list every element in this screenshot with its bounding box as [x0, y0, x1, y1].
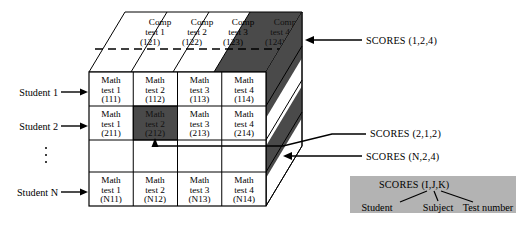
front-face-group: Math test 1 (111) Math test 2 (112) Math…: [89, 72, 266, 206]
diagram-svg: Comp test 1 (121) Comp test 2 (122) Comp…: [0, 0, 530, 226]
annotation-scores-n-2-4: SCORES (N,2,4): [283, 151, 439, 163]
top-cell-3-line1: Comp: [232, 17, 255, 27]
figure-canvas: Comp test 1 (121) Comp test 2 (122) Comp…: [0, 0, 530, 226]
student-labels-group: Student 1 Student 2 Student N: [17, 87, 88, 198]
cell-r4c1-line2: test 1: [101, 185, 121, 195]
cell-r1c3-line1: Math: [190, 75, 210, 85]
cell-r4c2-line2: test 2: [145, 185, 165, 195]
top-cell-2: Comp test 2 (122): [182, 17, 214, 47]
top-cell-2-line1: Comp: [191, 17, 214, 27]
cell-r1c2-line1: Math: [145, 75, 165, 85]
student-1-label: Student 1: [19, 87, 58, 98]
student-n-arrow: [61, 189, 88, 196]
top-cell-1-line2: test 1: [145, 27, 165, 37]
top-cell-4-line2: test 4: [270, 27, 290, 37]
legend-title: SCORES (I,J,K): [379, 179, 449, 191]
cell-r4c3-line2: test 3: [190, 185, 210, 195]
cell-r4c3-line3: (N13): [189, 194, 211, 204]
cell-r2c4-line3: (214): [234, 128, 254, 138]
student-2-arrow: [61, 123, 88, 130]
cell-r2c1-line2: test 1: [101, 119, 121, 129]
cell-r1c1-line3: (111): [101, 94, 120, 104]
cell-r2c2-line2: test 2: [145, 119, 165, 129]
top-face-group: Comp test 1 (121) Comp test 2 (122) Comp…: [89, 12, 302, 72]
top-cell-3-line3: (123): [223, 37, 243, 47]
student-2-label: Student 2: [19, 121, 58, 132]
top-cell-2-line2: test 2: [187, 27, 207, 37]
top-cell-1-line1: Comp: [149, 17, 172, 27]
student-1-arrow: [61, 89, 88, 96]
annotation-scores-n-2-4-label: SCORES (N,2,4): [366, 151, 439, 163]
top-cell-3-line2: test 3: [228, 27, 248, 37]
legend-part-test-number: Test number: [463, 202, 514, 213]
top-cell-1-line3: (121): [140, 37, 160, 47]
cell-r2c4-line2: test 4: [234, 119, 254, 129]
cell-r1c4-line1: Math: [234, 75, 254, 85]
cell-r1c1-line2: test 1: [101, 85, 121, 95]
cell-r2c2-line3: (212): [145, 128, 165, 138]
cell-r2c1-line3: (211): [101, 128, 121, 138]
cell-r4c2-line1: Math: [145, 175, 165, 185]
legend-part-subject: Subject: [423, 202, 454, 213]
annotation-scores-1-2-4: SCORES (1,2,4): [305, 35, 437, 47]
cell-r2c3-line3: (213): [190, 128, 210, 138]
cell-r4c4-line2: test 4: [234, 185, 254, 195]
cell-r1c4-line3: (114): [234, 94, 254, 104]
legend-part-student: Student: [361, 202, 392, 213]
legend-box-group: SCORES (I,J,K) Student Subject Test numb…: [350, 176, 516, 213]
cell-r2c3-line2: test 3: [190, 119, 210, 129]
student-n-label: Student N: [17, 187, 59, 198]
cell-r4c1-line1: Math: [101, 175, 121, 185]
cell-r1c3-line2: test 3: [190, 85, 210, 95]
cell-r1c1-line1: Math: [101, 75, 121, 85]
top-cell-2-line3: (122): [182, 37, 202, 47]
vertical-ellipsis: [45, 147, 47, 163]
cell-r4c1-line3: (N11): [100, 194, 122, 204]
cell-r1c3-line3: (113): [190, 94, 210, 104]
cell-r1c2-line2: test 2: [145, 85, 165, 95]
cell-r2c3-line1: Math: [190, 109, 210, 119]
cell-r4c2-line3: (N12): [144, 194, 166, 204]
cell-r4c3-line1: Math: [190, 175, 210, 185]
annotation-scores-2-1-2-label: SCORES (2,1,2): [370, 128, 441, 140]
top-cell-4-line1: Comp: [274, 17, 297, 27]
cell-r4c4-line3: (N14): [233, 194, 255, 204]
top-cell-1: Comp test 1 (121): [140, 17, 172, 47]
cell-r2c2-line1: Math: [145, 109, 165, 119]
cell-r2c4-line1: Math: [234, 109, 254, 119]
cell-r1c2-line3: (112): [145, 94, 165, 104]
cell-r2c1-line1: Math: [101, 109, 121, 119]
cell-r1c4-line2: test 4: [234, 85, 254, 95]
annotation-scores-1-2-4-label: SCORES (1,2,4): [366, 35, 437, 47]
cell-r4c4-line1: Math: [234, 175, 254, 185]
